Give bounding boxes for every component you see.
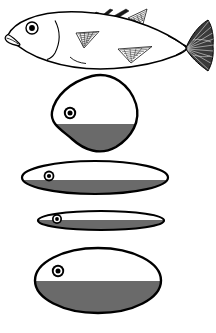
fish-eye (26, 22, 38, 34)
panel-large-ellipse (28, 242, 178, 321)
thin-ellipse-eye (52, 214, 62, 224)
caudal-fin (186, 20, 214, 71)
panel-whole-fish (5, 9, 213, 71)
fish-shape-figure (0, 0, 216, 333)
panel-thin-ellipse (30, 205, 180, 235)
large-ellipse-eye (52, 265, 64, 277)
wide-ellipse-eye (44, 171, 55, 182)
diamond-eye (64, 107, 76, 119)
panel-wide-ellipse (15, 155, 180, 202)
figure-root: Fish body shapes with countershading (0, 0, 216, 333)
wide-ellipse-shadow-region (15, 180, 180, 202)
panel-diamond-shape (40, 60, 160, 174)
fish-body-outline (8, 12, 187, 69)
